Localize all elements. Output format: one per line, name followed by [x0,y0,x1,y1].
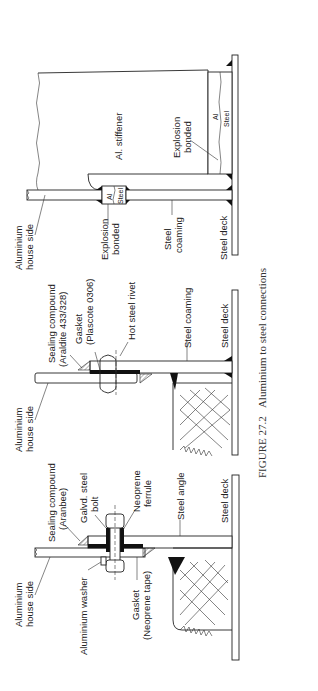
label-steel-deck: Steel deck [219,478,230,523]
label-explosion-bonded-b2: bonded [182,121,193,153]
label-house-side-1: Aluminium [13,408,24,452]
label-sealing-compound-1: Sealing compound [46,284,57,363]
weld [126,200,130,204]
mesh-pattern [180,560,228,625]
label-sealing-compound-2: (Araldite 433/328) [57,291,68,367]
weld [96,200,102,204]
label-house-side-2: house side [24,406,35,452]
explosion-bonded-detail: Aluminium house side Explosion bonded St… [13,55,238,270]
label-neoprene-ferrule-1: Neoprene [131,470,142,512]
label-sealing-compound-1: Sealing compound [46,463,57,542]
label-steel-deck: Steel deck [218,215,229,260]
steel-deck-plate [232,475,239,660]
label-house-side-2: house side [24,224,35,270]
leader [123,510,135,530]
label-gasket-1: Gasket [73,314,84,344]
label-steel-angle: Steel angle [175,472,186,520]
gasket-black [90,370,140,374]
label-steel-coaming-2: coaming [173,217,184,253]
leader [95,515,106,528]
house-side-plate [35,548,145,557]
figure-27-2: Aluminium house side Explosion bonded St… [0,0,318,691]
label-house-side-1: Aluminium [13,583,24,627]
label-explosion-bonded-2: bonded [110,223,121,255]
caption-text: Aluminium to steel connections [256,268,268,408]
label-explosion-bonded-b1: Explosion [171,117,182,158]
leader [120,342,128,356]
house-side-plate [27,190,102,200]
label-steel-coaming-1: Steel [162,228,173,250]
label-sealing-compound-2: (Aranbee) [57,488,68,530]
label-al: Al [106,193,113,200]
caption-prefix: FIGURE 27.2 [256,416,268,478]
bolted-detail: Aluminium house side Sealing compound (A… [13,463,239,660]
label-hot-steel-rivet: Hot steel rivet [126,282,137,340]
label-neoprene-ferrule-2: ferrule [142,480,153,507]
label-galvd-bolt-2: bolt [89,496,100,512]
sealing-compound [143,548,155,557]
weld [224,373,232,378]
steel-coaming [126,190,232,200]
leader [35,195,45,235]
aluminium-washer [101,557,106,565]
weld [226,60,232,66]
steel-deck-plate [232,290,238,455]
caption: FIGURE 27.2 Aluminium to steel connectio… [256,268,268,478]
label-house-side-2: house side [24,581,35,627]
label-explosion-bonded-1: Explosion [99,219,110,260]
figure-caption: FIGURE 27.2 Aluminium to steel connectio… [256,268,268,478]
riveted-detail: Aluminium house side Sealing compound (A… [13,278,238,456]
weld [224,356,232,361]
house-side-plate [35,373,137,383]
label-galvd-bolt-1: Galvd. steel [78,473,89,523]
label-al-b: Al [212,113,219,120]
weld [226,174,232,180]
break-line [180,446,212,456]
label-house-side-1: Aluminium [13,226,24,270]
label-aluminium-washer: Aluminium washer [78,577,89,655]
label-steel-coaming: Steel coaming [182,288,193,348]
leader [35,557,50,595]
weld [170,373,178,390]
label-steel-deck: Steel deck [219,303,230,348]
leader [35,383,48,420]
mesh-pattern [180,388,230,448]
stiffener-break-line [37,73,40,190]
label-gasket-2: (Neoprene tape) [141,571,152,640]
leader [88,562,101,570]
label-gasket-1: Gasket [130,590,141,620]
leader [70,355,82,368]
weld [226,185,232,190]
steel-deck-plate [232,55,238,255]
weld [226,200,232,206]
label-steel-b: Steel [223,111,230,127]
label-steel: Steel [117,188,124,204]
label-al-stiffener: Al. stiffener [113,113,124,160]
weld [126,186,130,190]
label-gasket-2: (Plascote 0306) [84,278,95,345]
sealing-compound [140,374,152,383]
break-line [180,626,212,636]
